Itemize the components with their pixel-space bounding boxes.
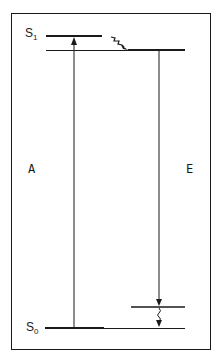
absorption-label: A — [28, 162, 36, 176]
absorption-arrowhead-icon — [71, 37, 77, 45]
jablonski-diagram: S1 S0 A E — [0, 0, 222, 364]
diagram-frame — [12, 14, 211, 350]
s1-vibrational-relaxation-wavy-arrow — [111, 37, 124, 47]
s0-vibrational-relaxation-wavy-arrow — [158, 308, 161, 321]
s0-label: S0 — [26, 320, 39, 336]
s1-label: S1 — [25, 26, 38, 42]
emission-arrowhead-icon — [156, 299, 162, 306]
s0-relaxation-arrowhead-icon — [156, 320, 162, 327]
emission-label: E — [186, 162, 193, 176]
